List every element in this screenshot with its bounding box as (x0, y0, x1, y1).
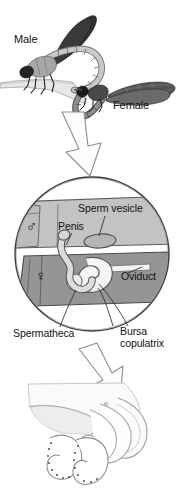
panel-penis-detail (0, 0, 180, 493)
damselfly-figure: Male Female (0, 0, 180, 493)
body-detail-dot (104, 402, 108, 406)
